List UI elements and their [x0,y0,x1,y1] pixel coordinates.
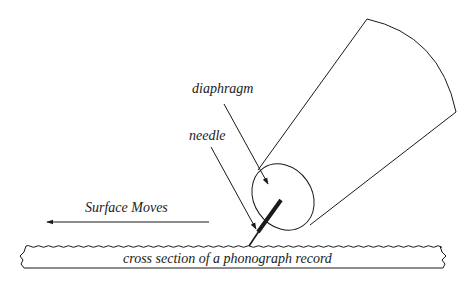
diaphragm-arrow [224,104,268,184]
record-left-break [20,246,26,268]
record-right-break [440,246,446,268]
surface-moves-label: Surface Moves [85,200,168,215]
needle-label: needle [189,128,226,143]
needle-tip [249,231,259,246]
diaphragm-housing [239,152,327,243]
horn-upper-edge [258,19,367,170]
horn-lower-edge [310,112,456,225]
record-label: cross section of a phonograph record [123,251,333,266]
phonograph-diagram: diaphragm needle Surface Moves cross sec… [0,0,475,286]
diaphragm-label: diaphragm [192,81,253,96]
horn-mouth-arc [367,19,456,112]
needle-arrow [211,147,256,229]
horn [258,19,456,225]
record-grooved-surface [26,246,442,248]
